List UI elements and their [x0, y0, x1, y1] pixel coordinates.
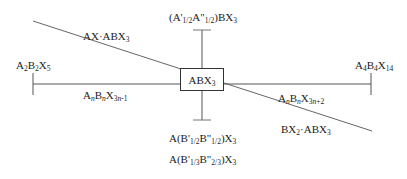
label-right-end: A4B4X14 — [355, 59, 393, 71]
label-left-end: A2B2X5 — [16, 59, 51, 71]
center-formula: ABX3 — [189, 74, 216, 86]
label-left-series: AnBnX3n-1 — [83, 89, 128, 101]
label-top: (A'1/2A"1/2)BX3 — [169, 11, 237, 23]
label-lower-right-diagonal: BX2·ABX3 — [281, 123, 331, 135]
label-upper-left-diagonal: AX·ABX3 — [83, 30, 130, 42]
center-compound-box: ABX3 — [180, 68, 224, 91]
label-right-series: AnBnX3n+2 — [278, 92, 324, 104]
label-bottom-1: A(B'1/2B"1/2)X3 — [169, 132, 236, 144]
label-bottom-2: A(B'1/3B"2/3)X3 — [169, 153, 236, 165]
